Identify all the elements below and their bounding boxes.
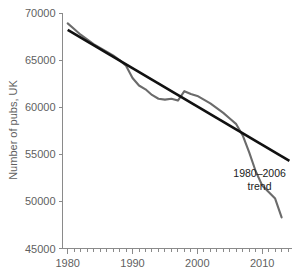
trend-annotation: 1980–2006trend	[233, 167, 286, 192]
chart-canvas: 450005000055000600006500070000 198019902…	[0, 0, 307, 276]
y-tick-label: 50000	[25, 195, 56, 207]
y-axis-title: Number of pubs, UK	[7, 80, 19, 180]
pubs-decline-chart: 450005000055000600006500070000 198019902…	[0, 0, 307, 276]
y-axis-tick-labels: 450005000055000600006500070000	[25, 7, 56, 255]
trend-line	[68, 30, 290, 161]
y-tick-label: 45000	[25, 243, 56, 255]
annotation-line: trend	[248, 180, 272, 192]
y-tick-label: 70000	[25, 7, 56, 19]
x-tick-label: 1980	[55, 257, 79, 269]
x-tick-label: 1990	[120, 257, 144, 269]
x-tick-label: 2000	[185, 257, 209, 269]
y-axis-ticks	[59, 13, 63, 249]
y-tick-label: 65000	[25, 54, 56, 66]
annotation-line: 1980–2006	[233, 167, 286, 179]
x-tick-label: 2010	[250, 257, 274, 269]
y-tick-label: 60000	[25, 101, 56, 113]
y-tick-label: 55000	[25, 148, 56, 160]
x-axis-tick-labels: 1980199020002010	[55, 257, 274, 269]
